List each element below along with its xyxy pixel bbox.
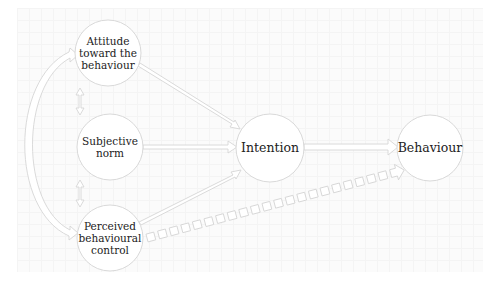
label-perceived-behavioural-control: Perceived behavioural control [77, 205, 143, 271]
arrow-norm-intention [143, 141, 237, 153]
double-arrow-attitude-norm [76, 88, 84, 115]
arrow-attitude-intention [138, 63, 240, 129]
arrow-intention-behaviour [304, 139, 398, 155]
arrow-pbc-intention [139, 170, 241, 225]
double-arrow-norm-pbc [76, 180, 84, 207]
tpb-diagram: Attitude toward the behaviour Subjective… [0, 0, 483, 289]
arc-arrow-attitude-pbc [25, 48, 78, 240]
label-attitude: Attitude toward the behaviour [75, 20, 141, 86]
label-subjective-norm: Subjective norm [77, 114, 143, 180]
label-intention: Intention [236, 114, 304, 182]
label-behaviour: Behaviour [397, 115, 463, 181]
